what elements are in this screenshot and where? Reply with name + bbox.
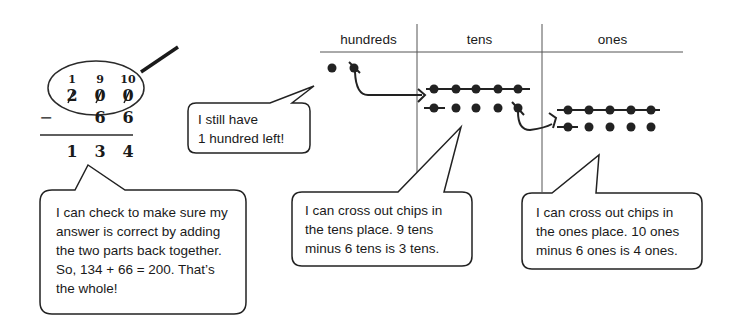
bottom-digit-ones: 6 bbox=[118, 108, 138, 127]
bubble-tens-text: I can cross out chips in the tens place.… bbox=[305, 201, 442, 258]
magnifier-handle bbox=[141, 47, 178, 72]
bubble-line: minus 6 ones is 4 ones. bbox=[536, 241, 679, 260]
bubble-line: 1 hundred left! bbox=[198, 129, 284, 148]
bubble-line: the two parts back together. bbox=[56, 241, 228, 260]
bubble-line: answer is correct by adding bbox=[56, 222, 228, 241]
bubble-line: the tens place. 9 tens bbox=[305, 220, 442, 239]
bubble-line: I can cross out chips in bbox=[305, 201, 442, 220]
bubble-line: I can check to make sure my bbox=[56, 203, 228, 222]
top-digit-ones: 0 bbox=[118, 86, 138, 105]
bubble-line: the ones place. 10 ones bbox=[536, 222, 679, 241]
regroup-digit-ones: 10 bbox=[118, 73, 138, 86]
bubble-line: I can cross out chips in bbox=[536, 203, 679, 222]
header-hundreds: hundreds bbox=[320, 32, 417, 47]
header-tens: tens bbox=[417, 32, 542, 47]
bubble-line: minus 6 tens is 3 tens. bbox=[305, 239, 442, 258]
regroup-digit-hundreds: 1 bbox=[62, 73, 82, 86]
bubble-ones-text: I can cross out chips in the ones place.… bbox=[536, 203, 679, 260]
bubble-hundred-left-text: I still have 1 hundred left! bbox=[198, 110, 284, 148]
top-digit-tens: 0 bbox=[90, 86, 110, 105]
top-digit-hundreds: 2 bbox=[62, 86, 82, 105]
bottom-digit-tens: 6 bbox=[90, 108, 110, 127]
result-digit-ones: 4 bbox=[118, 142, 138, 161]
minus-sign: − bbox=[36, 108, 56, 127]
regroup-digit-tens: 9 bbox=[90, 73, 110, 86]
bubble-line: So, 134 + 66 = 200. That’s bbox=[56, 260, 228, 279]
bubble-line: I still have bbox=[198, 110, 284, 129]
bubble-line: the whole! bbox=[56, 279, 228, 298]
result-digit-tens: 3 bbox=[90, 142, 110, 161]
header-ones: ones bbox=[542, 32, 683, 47]
result-digit-hundreds: 1 bbox=[62, 142, 82, 161]
bubble-check-text: I can check to make sure my answer is co… bbox=[56, 203, 228, 298]
